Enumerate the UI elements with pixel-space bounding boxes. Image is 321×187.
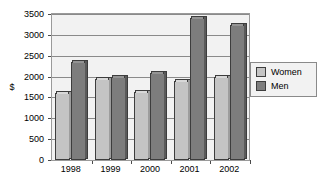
x-tick-label: 1999 — [100, 164, 120, 174]
legend-item-men: Men — [256, 81, 311, 91]
bar-women-1999 — [95, 79, 110, 160]
bar-chart: $ 3500300025002000150010005000 199819992… — [0, 0, 321, 187]
bar-top-face — [191, 16, 204, 19]
bar-group — [210, 14, 250, 160]
x-tick-label: 2002 — [219, 164, 239, 174]
bar-top-face — [175, 79, 188, 82]
bar-men-2002 — [230, 25, 245, 160]
bar-group — [171, 14, 211, 160]
plot-area — [51, 14, 250, 161]
bar-side-face — [85, 60, 88, 159]
bar-group — [92, 14, 132, 160]
bar-men-2001 — [190, 18, 205, 160]
legend: Women Men — [250, 62, 317, 97]
y-tick-label: 2000 — [8, 72, 44, 82]
y-tick-label: 1000 — [8, 113, 44, 123]
bar-men-1999 — [111, 77, 126, 160]
y-tick-mark — [48, 160, 52, 161]
bar-group — [52, 14, 92, 160]
bar-top-face — [112, 75, 125, 78]
bar-top-face — [56, 91, 69, 94]
x-tick-label: 2001 — [180, 164, 200, 174]
x-tick-label: 1998 — [61, 164, 81, 174]
bar-men-1998 — [71, 62, 86, 160]
y-tick-label: 500 — [8, 134, 44, 144]
bar-side-face — [244, 23, 247, 159]
legend-item-women: Women — [256, 67, 311, 77]
legend-label-men: Men — [271, 82, 289, 91]
bar-top-face — [151, 71, 164, 74]
y-tick-label: 2500 — [8, 51, 44, 61]
x-tick-mark — [250, 160, 251, 164]
bar-top-face — [96, 77, 109, 80]
y-tick-label: 0 — [8, 155, 44, 165]
bar-women-2001 — [174, 81, 189, 160]
y-tick-label: 3000 — [8, 30, 44, 40]
bar-women-1998 — [55, 93, 70, 160]
legend-swatch-men-icon — [256, 81, 266, 91]
bar-top-face — [231, 23, 244, 26]
x-axis-tick-labels: 19981999200020012002 — [51, 164, 250, 184]
bar-top-face — [215, 75, 228, 78]
legend-swatch-women-icon — [256, 67, 266, 77]
legend-label-women: Women — [271, 68, 302, 77]
y-tick-label: 1500 — [8, 92, 44, 102]
bar-series-container — [52, 14, 250, 160]
bar-side-face — [164, 71, 167, 159]
x-tick-label: 2000 — [140, 164, 160, 174]
y-tick-label: 3500 — [8, 9, 44, 19]
bar-women-2000 — [134, 92, 149, 160]
bar-women-2002 — [214, 77, 229, 160]
bar-group — [131, 14, 171, 160]
bar-top-face — [72, 60, 85, 63]
bar-top-face — [135, 90, 148, 93]
bar-men-2000 — [150, 73, 165, 160]
bar-side-face — [125, 75, 128, 159]
bar-side-face — [204, 16, 207, 159]
y-axis-tick-labels: 3500300025002000150010005000 — [4, 0, 44, 187]
